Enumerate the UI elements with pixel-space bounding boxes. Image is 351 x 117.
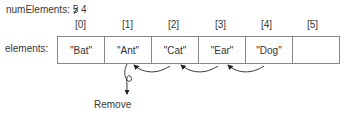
remove-arrow-icon [125, 64, 132, 94]
shift-arrow-icon [228, 65, 264, 72]
remove-label: Remove [94, 99, 131, 110]
shift-arrows [0, 0, 351, 117]
shift-arrow-icon [134, 65, 170, 72]
shift-arrow-icon [181, 65, 218, 72]
